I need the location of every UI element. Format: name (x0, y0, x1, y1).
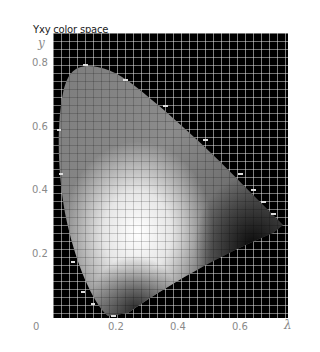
x-tick-0.6: 0.6 (232, 321, 248, 332)
y-tick-0.2: 0.2 (32, 248, 48, 259)
x-axis-label: λ (284, 318, 292, 332)
x-tick-0.2: 0.2 (108, 321, 124, 332)
x-tick-0: 0 (33, 321, 39, 332)
x-tick-0.4: 0.4 (170, 321, 186, 332)
y-tick-0.4: 0.4 (32, 184, 48, 195)
chromaticity-diagram (53, 33, 288, 318)
y-axis-label: y (38, 36, 45, 50)
y-tick-0.8: 0.8 (32, 57, 48, 68)
y-tick-0.6: 0.6 (32, 121, 48, 132)
